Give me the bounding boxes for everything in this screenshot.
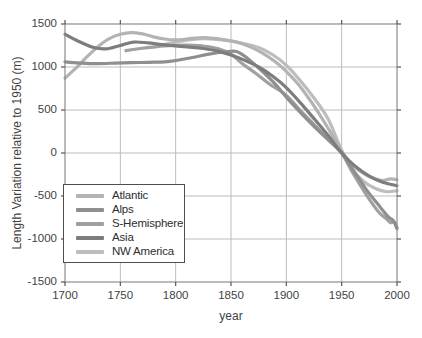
x-tick-label: 1700: [52, 290, 78, 302]
legend-item-atlantic: Atlantic: [76, 189, 184, 202]
plot-area: [0, 0, 422, 338]
x-tick-label: 1850: [218, 290, 244, 302]
x-axis-title: year: [219, 309, 242, 323]
legend-item-nw-america: NW America: [76, 245, 184, 258]
glacier-length-chart: 1700175018001850190019502000150010005000…: [0, 0, 422, 338]
legend-item-asia: Asia: [76, 231, 184, 244]
legend: AtlanticAlpsS-HemisphereAsiaNW America: [63, 184, 185, 263]
legend-swatch: [76, 194, 104, 198]
legend-label: Atlantic: [112, 190, 148, 202]
series-line-nw-america: [161, 39, 397, 192]
legend-swatch: [76, 208, 104, 212]
x-tick-label: 1900: [274, 290, 300, 302]
y-tick-label: -500: [34, 190, 57, 202]
x-tick-label: 1750: [108, 290, 134, 302]
x-tick-label: 1950: [329, 290, 355, 302]
x-tick-label: 2000: [384, 290, 410, 302]
legend-label: NW America: [112, 246, 174, 258]
y-tick-label: 500: [38, 104, 57, 116]
legend-swatch: [76, 236, 104, 240]
y-tick-label: 1000: [31, 61, 57, 73]
legend-label: S-Hemisphere: [112, 218, 183, 230]
legend-swatch: [76, 250, 104, 254]
legend-label: Alps: [112, 204, 134, 216]
y-tick-label: 1500: [31, 18, 57, 30]
legend-item-alps: Alps: [76, 203, 184, 216]
x-tick-label: 1800: [163, 290, 189, 302]
y-tick-label: 0: [51, 147, 57, 159]
y-tick-label: -1500: [28, 276, 57, 288]
legend-swatch: [76, 222, 104, 226]
legend-item-s-hemisphere: S-Hemisphere: [76, 217, 184, 230]
y-axis-title: Length Variation relative to 1950 (m): [10, 56, 24, 249]
legend-label: Asia: [112, 232, 134, 244]
y-tick-label: -1000: [28, 233, 57, 245]
